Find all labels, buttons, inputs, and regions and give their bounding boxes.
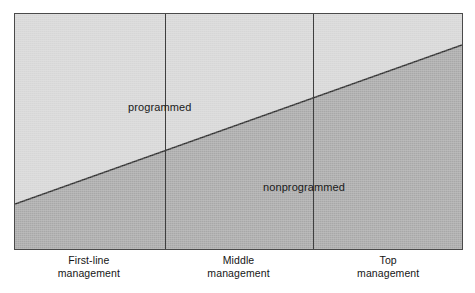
axis-label-line2: management (164, 267, 314, 280)
axis-label-line2: management (313, 267, 463, 280)
area-bands (15, 14, 462, 249)
region-label-programmed: programmed (128, 101, 191, 114)
axis-label-line1: First-line (14, 254, 164, 267)
axis-label-middle-management: Middle management (164, 254, 314, 290)
axis-label-line1: Top (313, 254, 463, 267)
axis-category-labels: First-line management Middle management … (14, 254, 463, 290)
divider-middle-top (313, 14, 314, 249)
axis-label-first-line-management: First-line management (14, 254, 164, 290)
region-label-nonprogrammed: nonprogrammed (263, 181, 345, 194)
axis-label-top-management: Top management (313, 254, 463, 290)
axis-label-line2: management (14, 267, 164, 280)
divider-first-line-middle (165, 14, 166, 249)
plot-area: programmed nonprogrammed (14, 13, 463, 250)
axis-label-line1: Middle (164, 254, 314, 267)
decision-type-by-management-level-chart: programmed nonprogrammed First-line mana… (0, 0, 475, 293)
